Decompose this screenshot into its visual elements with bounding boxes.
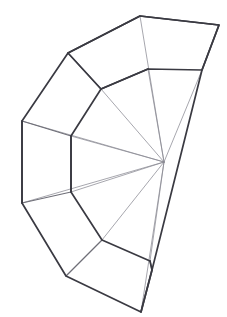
diagram-canvas: Unrolled fan net	[0, 0, 227, 317]
fan-net-figure	[0, 0, 227, 317]
page-background	[0, 0, 227, 317]
